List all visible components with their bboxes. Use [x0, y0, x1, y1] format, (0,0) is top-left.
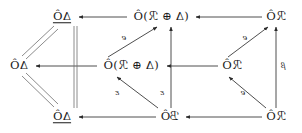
edge-equality-lower-a: [22, 76, 54, 107]
edge-equality-lower-b: [26, 73, 58, 104]
node-bottom-left-label: ΔÔ: [53, 109, 71, 123]
node-bottom-center-label: ℬÔ: [161, 111, 180, 123]
node-middle-right: ℛÔ: [222, 60, 242, 72]
node-middle-left: ΔÔ: [10, 60, 28, 72]
edge-label-e-upper-center: e: [122, 34, 127, 42]
node-top-center-label: (Δ ⊕ ℛ)Ô: [133, 11, 188, 23]
node-bottom-right: ℛÔ: [266, 111, 286, 123]
edge-label-epsilon-lower-left: ε: [115, 89, 119, 97]
node-middle-left-label: ΔÔ: [10, 60, 28, 72]
edge-equality-upper-a: [22, 26, 54, 56]
edge-label-e-lower-right: e: [241, 89, 246, 97]
node-top-left-label: ΔÔ: [53, 9, 71, 23]
edge-label-epsilon-col1: ε: [160, 89, 164, 97]
node-middle-center-label: (Δ ⊕ ℛ)Ô: [103, 60, 158, 72]
diagram-canvas: ΔÔ (Δ ⊕ ℛ)Ô ℛÔ ΔÔ (Δ ⊕ ℛ)Ô ℛÔ ΔÔ ℬÔ ℛÔ e…: [0, 0, 302, 133]
edge-label-beta-col2: β: [281, 62, 286, 70]
node-middle-center: (Δ ⊕ ℛ)Ô: [103, 60, 158, 72]
edge-diagonal-lower-right: [229, 77, 266, 108]
edge-equality-upper-b: [26, 29, 58, 59]
node-middle-right-label: ℛÔ: [222, 60, 242, 72]
edge-label-e-upper-right: e: [243, 34, 248, 42]
edge-diagonal-lower-center: [117, 77, 158, 108]
node-top-right-label: ℛÔ: [266, 11, 286, 23]
node-bottom-left: ΔÔ: [53, 111, 71, 123]
node-top-left: ΔÔ: [53, 11, 71, 23]
node-top-right: ℛÔ: [266, 11, 286, 23]
node-bottom-right-label: ℛÔ: [266, 111, 286, 123]
edge-diagonal-upper-center: [108, 27, 157, 57]
node-top-center: (Δ ⊕ ℛ)Ô: [133, 11, 188, 23]
edge-diagonal-upper-right: [228, 27, 268, 57]
node-bottom-center: ℬÔ: [161, 111, 180, 123]
